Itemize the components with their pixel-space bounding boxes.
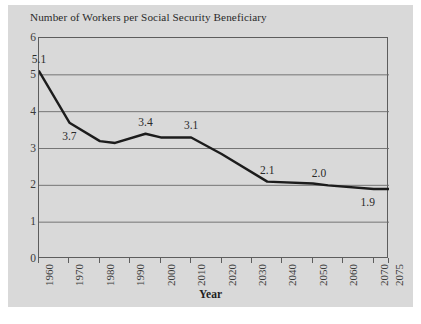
gridlines — [39, 75, 389, 222]
x-axis-tick-mark — [99, 258, 100, 263]
data-point-label: 2.1 — [260, 164, 274, 176]
x-axis-title: Year — [8, 288, 413, 300]
y-axis-tick-label: 0 — [14, 252, 36, 264]
x-axis-tick-mark — [251, 258, 252, 263]
data-point-label: 3.1 — [184, 119, 198, 131]
x-axis-tick-mark — [373, 258, 374, 263]
x-axis-tick-mark — [129, 258, 130, 263]
x-axis-tick-mark — [38, 258, 39, 263]
x-axis-tick-label: 1970 — [73, 264, 85, 286]
x-axis-tick-mark — [388, 258, 389, 263]
x-axis-tick-label: 2075 — [393, 264, 405, 286]
x-axis-tick-label: 2030 — [256, 264, 268, 286]
x-axis-tick-mark — [68, 258, 69, 263]
x-axis-tick-label: 2050 — [317, 264, 329, 286]
chart-title: Number of Workers per Social Security Be… — [30, 11, 267, 23]
y-axis-tick-label: 4 — [14, 105, 36, 117]
x-axis-tick-mark — [160, 258, 161, 263]
data-point-label: 1.9 — [361, 196, 375, 208]
y-axis-tick-label: 2 — [14, 178, 36, 190]
x-axis-tick-label: 2020 — [226, 264, 238, 286]
chart-figure: Number of Workers per Social Security Be… — [8, 5, 413, 307]
data-point-label: 5.1 — [32, 53, 46, 65]
x-axis-tick-mark — [312, 258, 313, 263]
data-line — [39, 71, 389, 189]
x-axis-tick-label: 2060 — [347, 264, 359, 286]
x-axis-tick-label: 1980 — [104, 264, 116, 286]
x-axis-tick-mark — [342, 258, 343, 263]
y-axis-tick-label: 6 — [14, 31, 36, 43]
x-axis-tick-label: 1990 — [134, 264, 146, 286]
x-axis-tick-mark — [221, 258, 222, 263]
data-series-layer — [39, 71, 389, 189]
x-axis-tick-label: 1960 — [43, 264, 55, 286]
x-axis-tick-label: 2010 — [195, 264, 207, 286]
plot-area: 5.13.73.43.12.12.01.9 — [38, 37, 388, 258]
x-axis-tick-label: 2070 — [378, 264, 390, 286]
x-axis-tick-label: 2000 — [165, 264, 177, 286]
y-axis: 0123456 — [10, 37, 36, 258]
data-point-label: 3.4 — [138, 116, 152, 128]
data-point-label: 3.7 — [62, 130, 76, 142]
y-axis-tick-label: 3 — [14, 142, 36, 154]
x-axis-tick-label: 2040 — [286, 264, 298, 286]
plot-svg — [39, 38, 389, 259]
x-axis-tick-mark — [190, 258, 191, 263]
y-axis-tick-label: 1 — [14, 215, 36, 227]
data-point-label: 2.0 — [312, 167, 326, 179]
x-axis-tick-mark — [281, 258, 282, 263]
y-axis-tick-label: 5 — [14, 68, 36, 80]
